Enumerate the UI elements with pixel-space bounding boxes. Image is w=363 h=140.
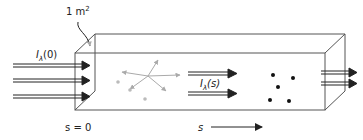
origin-label: s = 0 xyxy=(65,122,91,133)
scattering-center xyxy=(116,60,180,101)
incident-arrows xyxy=(13,61,90,101)
slab-diagram: 1 m2 Iλ(0) Iλ(s) xyxy=(0,0,363,140)
svg-text:1 m2: 1 m2 xyxy=(66,5,90,17)
incident-intensity-label: Iλ(0) xyxy=(36,49,57,63)
path-variable-label: s xyxy=(198,122,203,133)
internal-intensity-label: Iλ(s) xyxy=(200,78,220,92)
exiting-arrows xyxy=(321,68,357,88)
absorber-particles xyxy=(268,73,295,103)
area-label: 1 m2 xyxy=(66,5,90,46)
area-pointer-arrow xyxy=(78,22,90,46)
